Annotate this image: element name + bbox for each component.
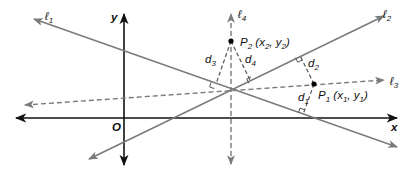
point-label-p1: P1 (x1, y1)	[318, 89, 368, 104]
origin-label: O	[112, 121, 121, 133]
line-label-l4: ℓ4	[237, 8, 247, 23]
distance-label-d4: d4	[245, 53, 256, 68]
line-label-l3: ℓ3	[389, 75, 399, 90]
line-l1	[34, 19, 397, 147]
distance-label-d1: d1	[298, 91, 309, 106]
point-label-p2: P2 (x2, y2)	[240, 36, 290, 51]
x-axis-label: x	[390, 121, 398, 133]
distance-label-d3: d3	[205, 53, 216, 68]
line-l2	[89, 16, 384, 159]
y-axis-label: y	[110, 11, 118, 23]
point-p2	[228, 38, 233, 43]
line-label-l2: ℓ2	[382, 8, 392, 23]
distance-label-d2: d2	[308, 57, 319, 72]
coordinate-diagram: y x O ℓ1 ℓ2 ℓ3 ℓ4 P2 (x2, y2) P1 (x1, y1…	[0, 0, 416, 178]
point-p1	[311, 81, 316, 86]
